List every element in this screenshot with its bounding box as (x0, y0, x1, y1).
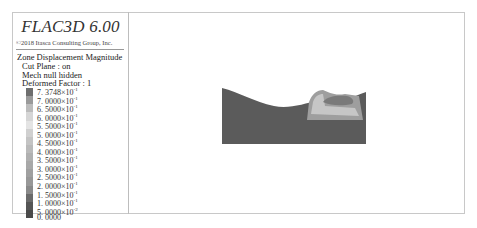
color-scale-label: 1. 0000×10-1 (37, 197, 78, 206)
color-scale-label: 1. 5000×10-1 (37, 189, 78, 198)
color-scale-label: 7. 3748×10-1 (37, 86, 78, 95)
legend-divider (16, 49, 124, 50)
color-scale-label: 4. 5000×10-1 (37, 137, 78, 146)
legend-panel: FLAC3D 6.00 ©2018 Itasca Consulting Grou… (12, 12, 129, 214)
color-scale-label: 5. 5000×10-1 (37, 120, 78, 129)
color-scale-label: 7. 0000×10-1 (37, 95, 78, 104)
color-scale-segment (26, 161, 33, 169)
3d-viewport[interactable] (129, 12, 465, 214)
color-scale-segment (26, 104, 33, 112)
color-scale-segment (26, 169, 33, 177)
zone-model (219, 72, 369, 154)
color-scale-label: 4. 0000×10-1 (37, 146, 78, 155)
color-scale-segment (26, 88, 33, 96)
app-title: FLAC3D 6.00 (12, 17, 129, 37)
color-scale-segment (26, 121, 33, 129)
color-scale-segment (26, 177, 33, 185)
color-scale-segment (26, 194, 33, 202)
color-scale-segment (26, 210, 33, 218)
color-scale-segment (26, 153, 33, 161)
color-scale-label: 5. 0000×10-1 (37, 129, 78, 138)
color-scale-segment (26, 129, 33, 137)
copyright-text: ©2018 Itasca Consulting Group, Inc. (16, 39, 112, 46)
color-scale-labels: 7. 3748×10-17. 0000×10-16. 5000×10-16. 0… (37, 86, 78, 223)
color-scale-segment (26, 202, 33, 210)
color-scale-label: 3. 5000×10-1 (37, 154, 78, 163)
color-scale-segment (26, 186, 33, 194)
color-scale-label: 6. 5000×10-1 (37, 103, 78, 112)
color-scale-segment (26, 145, 33, 153)
color-scale-label: 2. 0000×10-1 (37, 180, 78, 189)
color-scale-segment (26, 137, 33, 145)
color-scale-label: 2. 5000×10-1 (37, 171, 78, 180)
color-scale-bar (26, 88, 33, 218)
color-scale-segment (26, 112, 33, 120)
color-scale-label: 6. 0000×10-1 (37, 112, 78, 121)
color-scale-label: 3. 0000×10-1 (37, 163, 78, 172)
color-scale-segment (26, 96, 33, 104)
